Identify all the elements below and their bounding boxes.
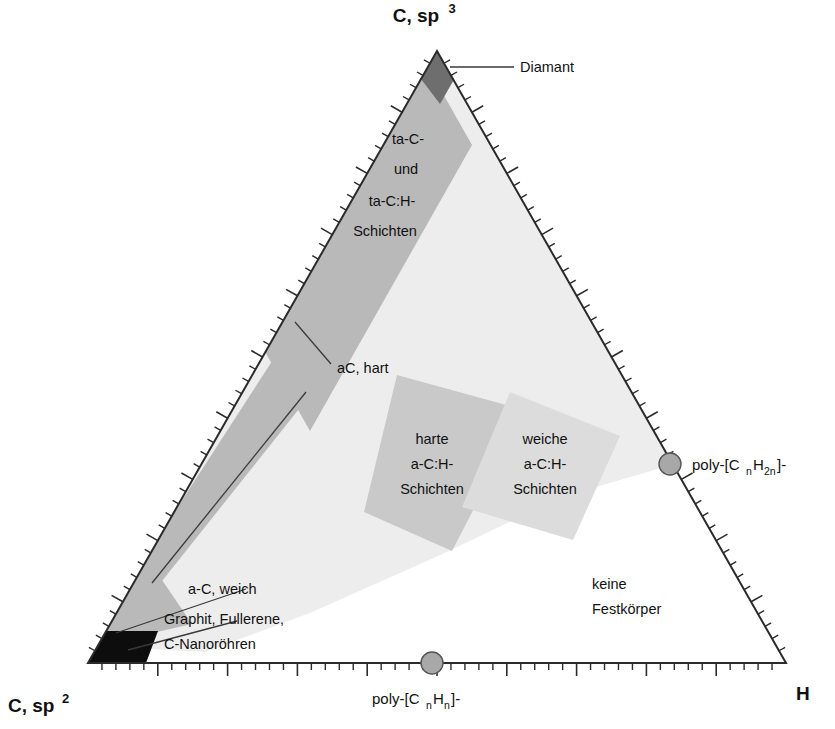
axis-tick-minor — [242, 378, 248, 381]
axis-tick-minor — [570, 280, 576, 283]
axis-tick-minor — [625, 378, 631, 381]
axis-tick-minor — [208, 439, 214, 442]
axis-label-right-sub2: 2n — [764, 465, 776, 477]
axis-tick-minor — [605, 341, 611, 344]
label-ta-c-line-1: ta-C- — [392, 131, 424, 147]
label-weiche-line-2: a-C:H- — [524, 456, 567, 472]
axis-tick-minor — [424, 60, 430, 63]
axis-label-right-suffix: ]- — [777, 456, 786, 473]
label-keine-line-2: Festkörper — [592, 601, 661, 617]
axis-tick-minor — [382, 133, 388, 136]
axis-tick-major — [391, 106, 402, 112]
label-ac-hart: aC, hart — [337, 360, 389, 376]
axis-tick-major — [321, 228, 332, 234]
poly-cnh2n-marker — [659, 453, 681, 475]
region-fills — [88, 51, 672, 663]
axis-label-right-sub1: n — [746, 465, 752, 477]
axis-tick-minor — [180, 488, 186, 491]
label-ta-c-line-2: und — [394, 161, 418, 177]
axis-tick-minor — [528, 207, 534, 210]
axis-tick-minor — [514, 182, 520, 185]
axis-tick-major — [472, 106, 483, 112]
axis-tick-minor — [263, 341, 269, 344]
axis-tick-minor — [194, 464, 200, 467]
axis-tick-minor — [410, 84, 416, 87]
axis-tick-minor — [354, 182, 360, 185]
label-harte-line-3: Schichten — [400, 481, 464, 497]
vertex-label-carbon-sp3: C, sp 3 — [393, 1, 456, 26]
label-harte-line-2: a-C:H- — [411, 456, 454, 472]
label-weiche-line-3: Schichten — [513, 481, 577, 497]
axis-tick-minor — [563, 268, 569, 271]
axis-tick-minor — [235, 390, 241, 393]
axis-tick-minor — [340, 207, 346, 210]
axis-tick-minor — [702, 513, 708, 516]
axis-tick-minor — [368, 158, 374, 161]
axis-tick-major — [216, 412, 227, 418]
axis-tick-major — [681, 473, 692, 479]
axis-tick-minor — [549, 243, 555, 246]
axis-tick-minor — [110, 611, 116, 614]
label-keine-line-1: keine — [592, 576, 627, 592]
ternary-diagram-canvas: C, sp 3 C, sp 2 H Diamant ta-C- und ta-C… — [0, 0, 835, 729]
label-ta-c-line-4: Schichten — [353, 223, 417, 239]
label-graphit-line-1: Graphit, Fullerene, — [164, 611, 284, 627]
axis-tick-minor — [695, 500, 701, 503]
label-harte-line-1: harte — [415, 431, 448, 447]
axis-tick-minor — [89, 647, 95, 650]
axis-label-bottom-prefix: poly-[C — [372, 690, 420, 707]
axis-tick-minor — [417, 72, 423, 75]
axis-tick-major — [577, 289, 588, 295]
axis-tick-minor — [765, 623, 771, 626]
axis-tick-major — [542, 228, 553, 234]
axis-tick-minor — [229, 402, 235, 405]
vertex-label-carbon-sp2-text: C, sp — [8, 695, 54, 716]
axis-tick-major — [646, 412, 657, 418]
vertex-label-carbon-sp3-text: C, sp — [393, 5, 439, 26]
axis-tick-minor — [159, 525, 165, 528]
axis-tick-minor — [591, 317, 597, 320]
axis-tick-minor — [166, 513, 172, 516]
axis-tick-minor — [737, 574, 743, 577]
axis-tick-minor — [173, 500, 179, 503]
axis-label-right-mid: H — [753, 456, 764, 473]
ternary-phase-diagram: C, sp 3 C, sp 2 H Diamant ta-C- und ta-C… — [0, 0, 835, 729]
axis-label-bottom-sub1: n — [426, 699, 432, 711]
axis-tick-minor — [556, 256, 562, 259]
axis-tick-minor — [660, 439, 666, 442]
axis-tick-minor — [103, 623, 109, 626]
axis-label-right-prefix: poly-[C — [692, 456, 740, 473]
label-keine-festkoerper: keine Festkörper — [592, 576, 661, 617]
axis-tick-major — [751, 595, 762, 601]
axis-tick-minor — [465, 96, 471, 99]
axis-tick-minor — [772, 635, 778, 638]
axis-tick-minor — [284, 305, 290, 308]
axis-tick-minor — [215, 427, 221, 430]
axis-tick-minor — [521, 194, 527, 197]
axis-tick-minor — [758, 611, 764, 614]
axis-tick-minor — [709, 525, 715, 528]
axis-tick-major — [716, 534, 727, 540]
poly-cnhn-marker — [421, 652, 443, 674]
axis-label-bottom-suffix: ]- — [451, 690, 460, 707]
axis-tick-minor — [451, 72, 457, 75]
label-diamant: Diamant — [520, 59, 574, 75]
axis-tick-major — [251, 351, 262, 357]
axis-tick-minor — [458, 84, 464, 87]
axis-tick-minor — [779, 647, 785, 650]
axis-tick-minor — [389, 121, 395, 124]
axis-tick-minor — [375, 145, 381, 148]
axis-tick-minor — [333, 219, 339, 222]
vertex-label-carbon-sp2: C, sp 2 — [8, 691, 69, 716]
axis-label-right: poly-[C n H 2n ]- — [692, 456, 786, 477]
axis-tick-minor — [535, 219, 541, 222]
vertex-label-carbon-sp2-sup: 2 — [62, 691, 69, 706]
axis-tick-minor — [201, 451, 207, 454]
axis-tick-major — [112, 595, 123, 601]
axis-tick-minor — [618, 366, 624, 369]
axis-label-bottom-mid: H — [433, 690, 444, 707]
vertex-label-carbon-sp3-sup: 3 — [448, 1, 455, 16]
axis-tick-minor — [639, 402, 645, 405]
axis-tick-major — [507, 167, 518, 173]
axis-tick-minor — [403, 96, 409, 99]
